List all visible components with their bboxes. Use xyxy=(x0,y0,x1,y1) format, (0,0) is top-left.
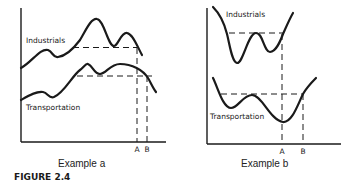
marker-b-label: B xyxy=(301,147,306,156)
transportation-label: Transportation xyxy=(209,112,264,121)
marker-a-label: A xyxy=(280,147,286,156)
panel-example-b: Industrials Transportation A B Example b xyxy=(207,7,341,169)
marker-b-label: B xyxy=(145,145,150,154)
industrials-label: Industrials xyxy=(26,36,65,45)
transportation-curve xyxy=(21,64,156,100)
transportation-label: Transportation xyxy=(25,103,80,112)
caption-example-a: Example a xyxy=(58,158,106,169)
figure-label: FIGURE 2.4 xyxy=(14,172,70,182)
caption-example-b: Example b xyxy=(241,158,289,169)
figure-canvas: Industrials Transportation A B Example a… xyxy=(0,0,356,188)
industrials-label: Industrials xyxy=(226,10,265,19)
panel-example-a: Industrials Transportation A B Example a xyxy=(21,8,166,169)
marker-a-label: A xyxy=(135,145,141,154)
